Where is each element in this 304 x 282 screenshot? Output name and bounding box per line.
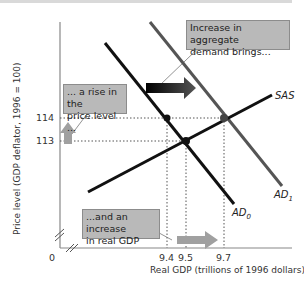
origin-label: 0 (49, 252, 55, 263)
callout-gdp-line2: in real GDP (86, 235, 156, 247)
callout-price-line2: price level ... (67, 110, 123, 134)
callout-gdp-line1: ...and an increase (86, 211, 156, 235)
y-tick-114: 114 (36, 112, 54, 123)
callout-price: ... a rise in the price level ... (63, 84, 127, 114)
sas-label: SAS (275, 90, 295, 101)
equilibrium-new (220, 114, 228, 122)
ad0-label: AD0 (231, 207, 252, 221)
x-tick-9.7: 9.7 (216, 252, 231, 263)
callout-price-line1: ... a rise in the (67, 86, 123, 110)
y-tick-113: 113 (36, 135, 54, 146)
x-tick-9.4: 9.4 (159, 252, 174, 263)
callout-demand-line1: Increase in aggregate (190, 22, 286, 46)
callout-demand-line2: demand brings... (190, 46, 286, 58)
callout-demand: Increase in aggregate demand brings... (186, 20, 290, 50)
ad0-curve (105, 43, 234, 204)
equilibrium-initial (182, 137, 190, 145)
y-axis-title: Price level (GDP deflator, 1996 = 100) (12, 62, 22, 235)
gdp-increase-arrow-icon (177, 231, 218, 249)
x-axis-title: Real GDP (trillions of 1996 dollars) (150, 265, 304, 275)
ad-shift-arrow-icon (146, 77, 196, 99)
x-tick-9.5: 9.5 (178, 252, 193, 263)
callout-gdp: ...and an increase in real GDP (82, 209, 160, 239)
ad1-label: AD1 (273, 189, 293, 203)
point-9.4-114 (164, 115, 171, 122)
